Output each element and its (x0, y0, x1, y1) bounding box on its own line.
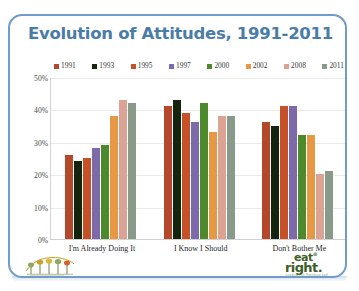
bar (128, 103, 136, 239)
legend-swatch-icon (207, 64, 212, 69)
bar (289, 106, 297, 239)
chart-card: Evolution of Attitudes, 1991-2011 199119… (8, 14, 347, 278)
bar-group (262, 78, 333, 239)
legend-swatch-icon (246, 64, 251, 69)
legend-label: 1995 (138, 62, 153, 69)
legend-label: 2011 (329, 62, 344, 69)
bar (218, 116, 226, 239)
bar (209, 132, 217, 239)
bar (101, 145, 109, 239)
bar (173, 100, 181, 239)
legend-label: 1997 (176, 62, 191, 69)
chart-legend: 19911993199519972000200220082011 (54, 60, 344, 72)
bar (262, 122, 270, 239)
bar (164, 106, 172, 239)
bar (119, 100, 127, 239)
academy-logo-icon (24, 254, 76, 278)
legend-swatch-icon (169, 64, 174, 69)
legend-item: 2008 (284, 62, 306, 69)
legend-swatch-icon (54, 64, 59, 69)
bar (110, 116, 118, 239)
legend-label: 1993 (99, 62, 114, 69)
legend-swatch-icon (284, 64, 289, 69)
bar (200, 103, 208, 239)
y-axis-tick-label: 20% (34, 171, 48, 180)
legend-swatch-icon (322, 64, 327, 69)
legend-swatch-icon (131, 64, 136, 69)
bar (271, 126, 279, 239)
y-axis-labels: 50%40%30%20%10%0% (16, 72, 48, 246)
legend-label: 2008 (291, 62, 306, 69)
legend-item: 2011 (322, 62, 344, 69)
y-axis-tick-label: 30% (34, 138, 48, 147)
bar (182, 113, 190, 239)
legend-item: 1993 (92, 62, 114, 69)
legend-item: 1991 (54, 62, 76, 69)
legend-label: 2000 (214, 62, 229, 69)
bar (65, 155, 73, 239)
y-axis-tick-label: 50% (34, 74, 48, 83)
y-axis-tick-label: 40% (34, 106, 48, 115)
legend-item: 1997 (169, 62, 191, 69)
legend-item: 1995 (131, 62, 153, 69)
plot-area (50, 78, 346, 240)
bar (92, 148, 100, 239)
bar (280, 106, 288, 239)
bar (316, 174, 324, 239)
bar (298, 135, 306, 239)
bar-group (65, 78, 136, 239)
legend-label: 1991 (61, 62, 76, 69)
page-title: Evolution of Attitudes, 1991-2011 (28, 24, 328, 43)
logo-subtitle: Academy of Nutrition and Dietetics (285, 273, 337, 278)
bar (74, 161, 82, 239)
legend-item: 2000 (207, 62, 229, 69)
x-axis-category-label: Don't Bother Me (239, 244, 347, 253)
legend-item: 2002 (246, 62, 268, 69)
legend-label: 2002 (253, 62, 268, 69)
bar (83, 158, 91, 239)
y-axis-tick-label: 10% (34, 203, 48, 212)
legend-swatch-icon (92, 64, 97, 69)
bar-group (164, 78, 235, 239)
bar (325, 171, 333, 239)
bar (307, 135, 315, 239)
bar (191, 122, 199, 239)
bar (227, 116, 235, 239)
eat-right-logo: eat® right. Academy of Nutrition and Die… (285, 252, 337, 278)
